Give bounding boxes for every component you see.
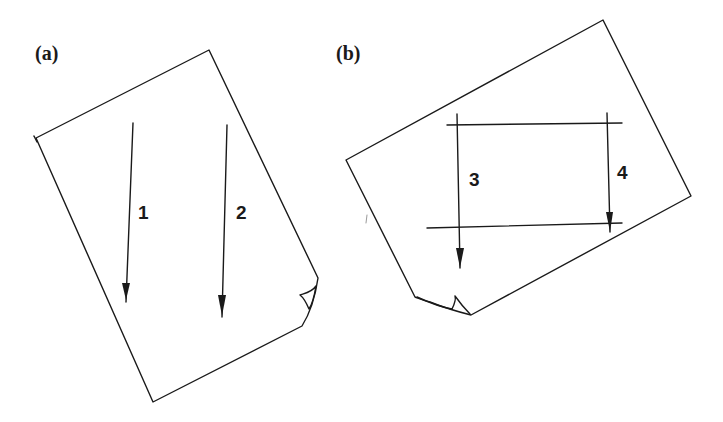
paper-sheet-b bbox=[346, 20, 691, 315]
panel-a: (a) 1 2 bbox=[34, 42, 318, 402]
paper-sheet-a bbox=[36, 50, 318, 402]
arrow-3-label: 3 bbox=[469, 169, 480, 190]
figure-canvas: (a) 1 2 (b) 3 bbox=[0, 0, 723, 422]
arrow-1-label: 1 bbox=[138, 202, 149, 223]
panel-b-label: (b) bbox=[336, 42, 360, 65]
panel-a-label: (a) bbox=[35, 42, 58, 65]
arrow-4-label: 4 bbox=[617, 162, 628, 183]
arrow-2-label: 2 bbox=[236, 202, 247, 223]
stray-mark bbox=[366, 215, 367, 223]
panel-b: (b) 3 4 bbox=[336, 20, 691, 315]
